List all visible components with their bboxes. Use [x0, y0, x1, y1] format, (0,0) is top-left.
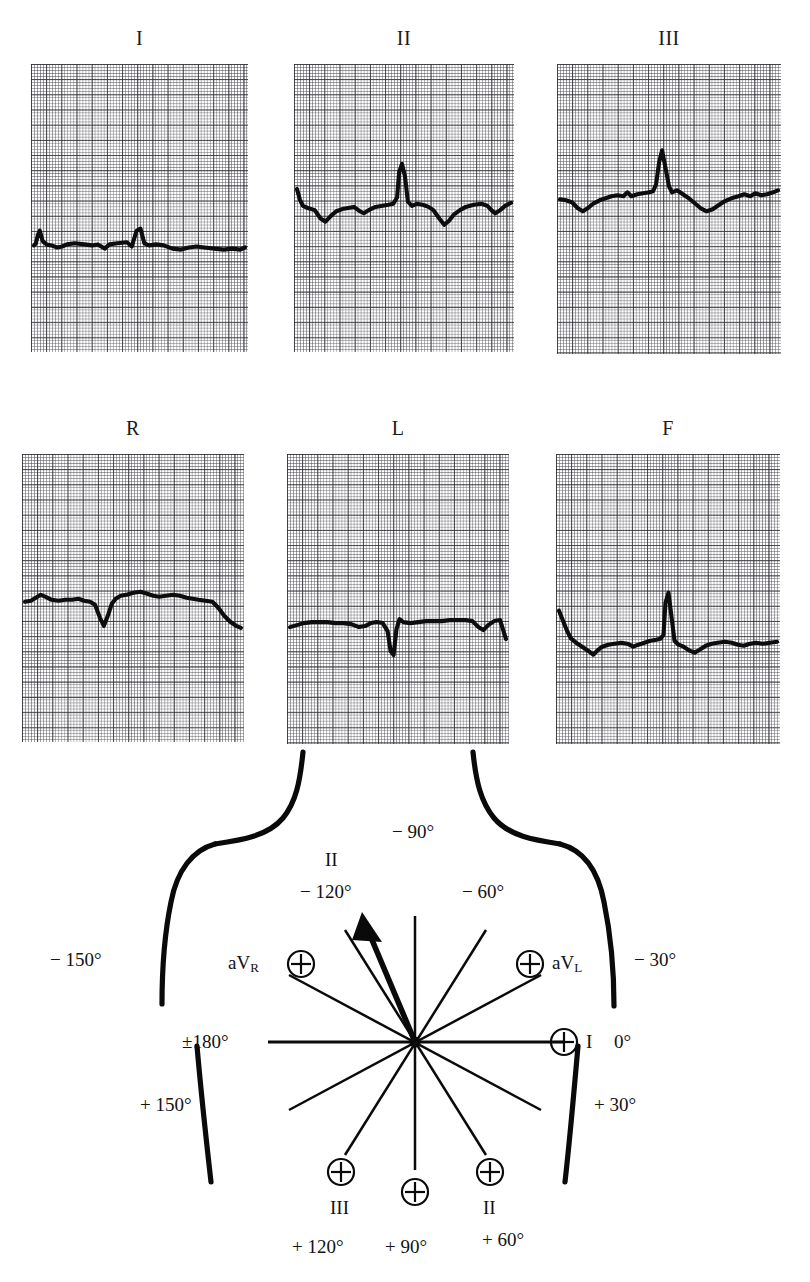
ecg-label-lead-3: III	[557, 28, 781, 48]
ecg-trace-lead-avf	[556, 454, 780, 744]
ecg-strip-lead-avf	[556, 454, 780, 744]
positive-pole-avl	[517, 951, 543, 977]
degree-label-minus-30: − 30°	[634, 950, 676, 969]
mean-axis-arrow-head	[352, 912, 382, 942]
lead-label-2-negative: II	[325, 850, 338, 869]
lead-label-avl: aVL	[552, 953, 582, 974]
hexaxial-center-dot	[410, 1037, 421, 1048]
mean-axis-arrow-shaft	[367, 928, 415, 1042]
torso-outline-left	[215, 752, 303, 844]
lead-label-avr-base: aV	[228, 952, 250, 973]
torso-outline-right-arm	[560, 844, 614, 1006]
degree-label-minus-150: − 150°	[50, 950, 102, 969]
positive-pole-lead-2	[477, 1159, 503, 1185]
degree-label-plus-120: + 120°	[292, 1237, 344, 1256]
ecg-trace-lead-avr	[22, 454, 244, 742]
lead-label-1: I	[586, 1032, 592, 1051]
ecg-label-lead-1: I	[31, 28, 248, 48]
degree-label-minus-60: − 60°	[462, 882, 504, 901]
ecg-label-lead-avf: F	[556, 418, 780, 438]
degree-label-plus-30: + 30°	[594, 1095, 636, 1114]
ecg-strip-lead-avl	[287, 454, 509, 744]
ecg-strip-lead-2	[294, 64, 514, 352]
ecg-label-lead-2: II	[294, 28, 514, 48]
degree-label-minus-120: − 120°	[300, 882, 352, 901]
lead-label-avl-base: aV	[552, 952, 574, 973]
ecg-label-lead-avl: L	[287, 418, 509, 438]
ecg-figure: I II III R	[0, 0, 810, 1282]
lead-label-2-positive: II	[483, 1198, 496, 1217]
ecg-trace-lead-3	[557, 64, 781, 354]
torso-outline-left-arm	[162, 844, 215, 1004]
positive-pole-avf	[402, 1179, 428, 1205]
ecg-panel-lead-avl: L	[287, 418, 509, 743]
torso-outline-left-flank	[197, 1046, 211, 1182]
degree-label-plus-90: + 90°	[385, 1237, 427, 1256]
positive-pole-lead-3	[328, 1159, 354, 1185]
ecg-strip-lead-1	[31, 64, 248, 352]
ecg-panel-lead-3: III	[557, 28, 781, 353]
ecg-trace-lead-avl	[287, 454, 509, 744]
positive-pole-avr	[288, 951, 314, 977]
degree-label-plus-minus-180: ±180°	[182, 1032, 229, 1051]
ecg-panel-lead-1: I	[31, 28, 248, 353]
positive-pole-lead-1	[551, 1029, 577, 1055]
lead-label-avr-sub: R	[250, 960, 259, 975]
hexaxial-reference-diagram: − 90° II − 120° − 60° − 150° − 30° ±180°…	[0, 740, 810, 1282]
degree-label-zero: 0°	[614, 1032, 631, 1051]
ecg-strip-lead-3	[557, 64, 781, 354]
torso-outline-right-flank	[565, 1046, 578, 1182]
degree-label-plus-60: + 60°	[482, 1230, 524, 1249]
ecg-panel-lead-avr: R	[22, 418, 244, 743]
ecg-trace-lead-2	[294, 64, 514, 352]
lead-label-3-positive: III	[330, 1198, 349, 1217]
ecg-trace-lead-1	[31, 64, 248, 352]
ecg-panel-lead-2: II	[294, 28, 514, 353]
ecg-strip-lead-avr	[22, 454, 244, 742]
torso-outline-right	[473, 752, 560, 844]
lead-label-avr: aVR	[228, 953, 259, 974]
ecg-label-lead-avr: R	[22, 418, 244, 438]
degree-label-minus-90: − 90°	[392, 822, 434, 841]
lead-label-avl-sub: L	[574, 960, 582, 975]
degree-label-plus-150: + 150°	[140, 1095, 192, 1114]
ecg-panel-lead-avf: F	[556, 418, 780, 743]
